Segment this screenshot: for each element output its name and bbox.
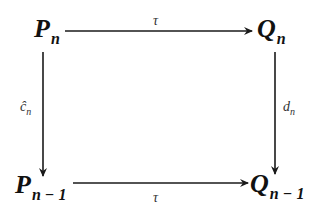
node-p-n: Pn <box>34 16 60 42</box>
node-p-n-sub: n <box>51 30 60 47</box>
label-right-d-sub: n <box>290 106 295 117</box>
node-p-n-minus-1-sub: n − 1 <box>32 186 67 203</box>
node-q-n-minus-1-base: Q <box>250 169 269 198</box>
label-bottom-tau: τ <box>153 191 158 205</box>
node-q-n-minus-1: Qn − 1 <box>250 171 304 197</box>
node-q-n-minus-1-sub: n − 1 <box>270 185 305 202</box>
commutative-diagram: Pn Qn Pn − 1 Qn − 1 τ τ ĉn dn <box>0 0 314 211</box>
label-right-d-base: d <box>283 99 290 114</box>
node-p-n-minus-1: Pn − 1 <box>15 172 66 198</box>
node-q-n: Qn <box>257 16 286 42</box>
label-left-c: ĉn <box>20 100 31 114</box>
label-left-c-sub: n <box>26 106 31 117</box>
label-top-tau: τ <box>153 14 158 28</box>
node-q-n-base: Q <box>257 14 276 43</box>
node-p-n-minus-1-base: P <box>15 170 31 199</box>
node-p-n-base: P <box>34 14 50 43</box>
node-q-n-sub: n <box>277 30 286 47</box>
label-right-d: dn <box>283 100 295 114</box>
